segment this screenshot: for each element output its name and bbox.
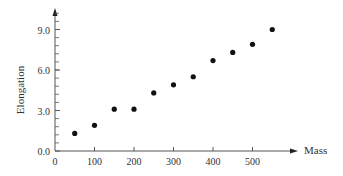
data-points bbox=[72, 27, 275, 136]
data-point bbox=[230, 50, 235, 55]
data-point bbox=[131, 107, 136, 112]
data-point bbox=[210, 58, 215, 63]
data-point bbox=[112, 107, 117, 112]
y-axis-arrow-icon bbox=[53, 8, 58, 16]
x-axis-arrow-icon bbox=[290, 149, 298, 154]
x-tick-label: 100 bbox=[87, 156, 102, 167]
data-point bbox=[92, 123, 97, 128]
x-tick-label: 200 bbox=[127, 156, 142, 167]
data-point bbox=[72, 131, 77, 136]
x-axis-label: Mass bbox=[304, 144, 327, 156]
data-point bbox=[250, 42, 255, 47]
data-point bbox=[270, 27, 275, 32]
ticks: 0.03.06.09.00100200300400500 bbox=[38, 13, 261, 167]
y-tick-label: 3.0 bbox=[38, 106, 51, 117]
y-tick-label: 6.0 bbox=[38, 65, 51, 76]
y-tick-label: 0.0 bbox=[38, 146, 51, 157]
scatter-chart: 0.03.06.09.00100200300400500 Elongation … bbox=[0, 0, 343, 176]
x-tick-label: 300 bbox=[166, 156, 181, 167]
y-axis-label: Elongation bbox=[14, 65, 26, 114]
axes bbox=[53, 8, 299, 154]
x-tick-label: 0 bbox=[53, 156, 58, 167]
data-point bbox=[191, 74, 196, 79]
y-tick-label: 9.0 bbox=[38, 25, 51, 36]
x-tick-label: 400 bbox=[206, 156, 221, 167]
data-point bbox=[151, 90, 156, 95]
x-tick-label: 500 bbox=[245, 156, 260, 167]
data-point bbox=[171, 82, 176, 87]
